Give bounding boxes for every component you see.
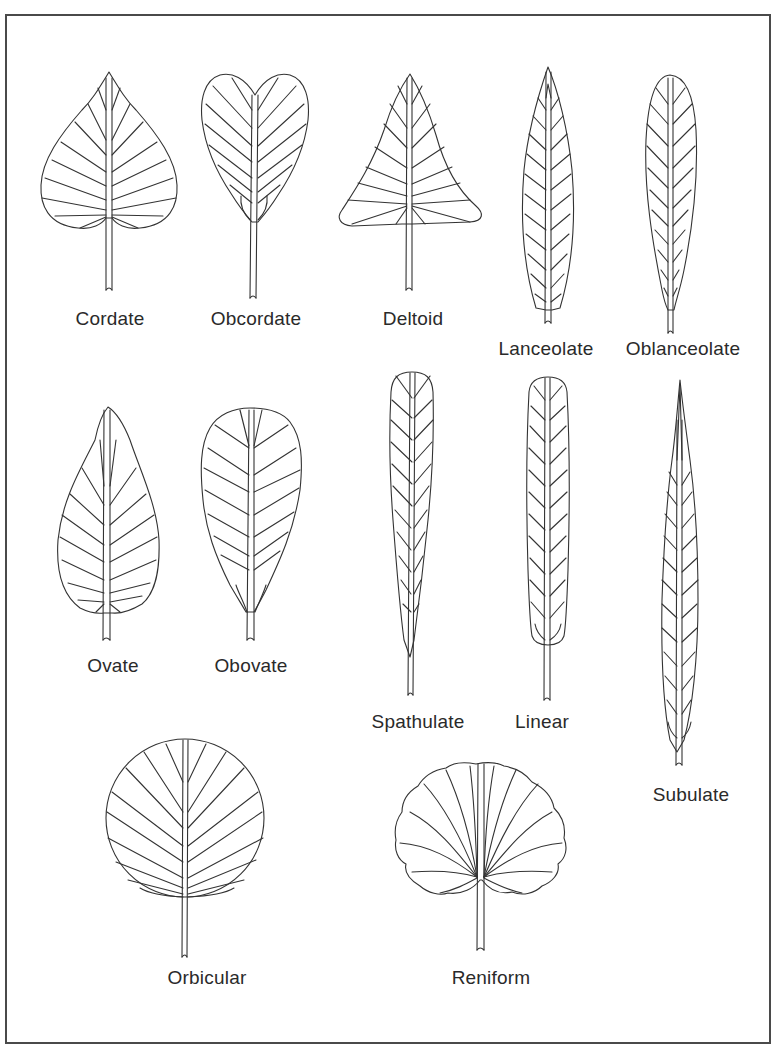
lanceolate-leaf-icon — [523, 67, 574, 323]
linear-leaf-icon — [527, 377, 569, 700]
lanceolate-label: Lanceolate — [499, 338, 594, 360]
obovate-leaf-icon — [201, 408, 301, 640]
ovate-leaf-icon — [58, 407, 160, 640]
leaf-shapes-diagram — [0, 0, 774, 1056]
orbicular-leaf-icon — [106, 739, 264, 957]
oblanceolate-leaf-icon — [646, 75, 697, 333]
spathulate-leaf-icon — [390, 372, 433, 695]
linear-label: Linear — [515, 711, 569, 733]
subulate-label: Subulate — [653, 784, 730, 806]
obovate-label: Obovate — [214, 655, 287, 677]
subulate-leaf-icon — [662, 380, 698, 765]
cordate-leaf-icon — [41, 72, 177, 290]
oblanceolate-label: Oblanceolate — [626, 338, 740, 360]
obcordate-label: Obcordate — [211, 308, 302, 330]
ovate-label: Ovate — [87, 655, 139, 677]
spathulate-label: Spathulate — [372, 711, 465, 733]
reniform-leaf-icon — [395, 763, 566, 950]
orbicular-label: Orbicular — [168, 967, 247, 989]
cordate-label: Cordate — [76, 308, 145, 330]
deltoid-label: Deltoid — [383, 308, 444, 330]
deltoid-leaf-icon — [339, 74, 481, 290]
obcordate-leaf-icon — [202, 74, 309, 298]
reniform-label: Reniform — [452, 967, 531, 989]
